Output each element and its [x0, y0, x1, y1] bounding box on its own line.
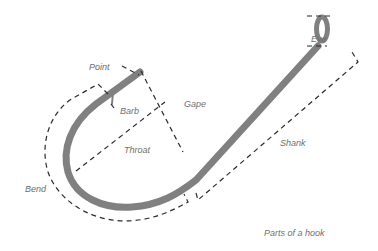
annotation-lines	[45, 16, 358, 221]
hook-body	[66, 17, 327, 207]
label-eye: Eye	[311, 35, 327, 44]
hook-barb	[112, 92, 113, 104]
label-throat: Throat	[124, 146, 150, 155]
label-gape: Gape	[184, 100, 206, 109]
shank-outline	[196, 52, 358, 200]
label-bend: Bend	[25, 185, 46, 194]
hook-point-tip	[118, 71, 141, 89]
label-point: Point	[89, 63, 110, 72]
label-shank: Shank	[280, 139, 306, 148]
diagram-caption: Parts of a hook	[264, 229, 325, 238]
label-barb: Barb	[120, 107, 139, 116]
gape-line	[141, 71, 183, 152]
